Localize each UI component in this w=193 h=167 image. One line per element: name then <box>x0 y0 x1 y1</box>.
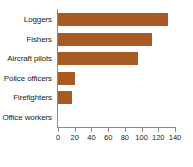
bar-loggers <box>58 13 168 26</box>
x-tick <box>58 128 59 132</box>
x-tick-label: 40 <box>87 133 95 142</box>
x-tick <box>175 128 176 132</box>
x-tick-label: 140 <box>169 133 182 142</box>
bar-aircraft-pilots <box>58 52 138 65</box>
x-tick-label: 0 <box>56 133 60 142</box>
x-tick-label: 120 <box>152 133 165 142</box>
bar-firefighters <box>58 91 72 104</box>
x-tick <box>91 128 92 132</box>
x-tick-label: 20 <box>71 133 79 142</box>
x-tick <box>142 128 143 132</box>
x-tick-label: 80 <box>121 133 129 142</box>
x-tick <box>158 128 159 132</box>
x-tick <box>108 128 109 132</box>
x-tick <box>75 128 76 132</box>
category-label: Office workers <box>2 108 52 128</box>
category-label: Fishers <box>26 30 52 50</box>
category-label: Loggers <box>24 10 52 30</box>
category-label: Police officers <box>4 69 52 89</box>
bar-fishers <box>58 33 152 46</box>
x-tick-label: 100 <box>135 133 148 142</box>
x-tick <box>125 128 126 132</box>
plot-area <box>58 10 175 127</box>
category-axis-labels: Loggers Fishers Aircraft pilots Police o… <box>0 10 55 127</box>
y-axis-line <box>57 9 58 128</box>
bar-police-officers <box>58 72 75 85</box>
bar-chart: Loggers Fishers Aircraft pilots Police o… <box>0 0 193 167</box>
category-label: Firefighters <box>13 88 52 108</box>
x-tick-label: 60 <box>104 133 112 142</box>
category-label: Aircraft pilots <box>7 49 52 69</box>
